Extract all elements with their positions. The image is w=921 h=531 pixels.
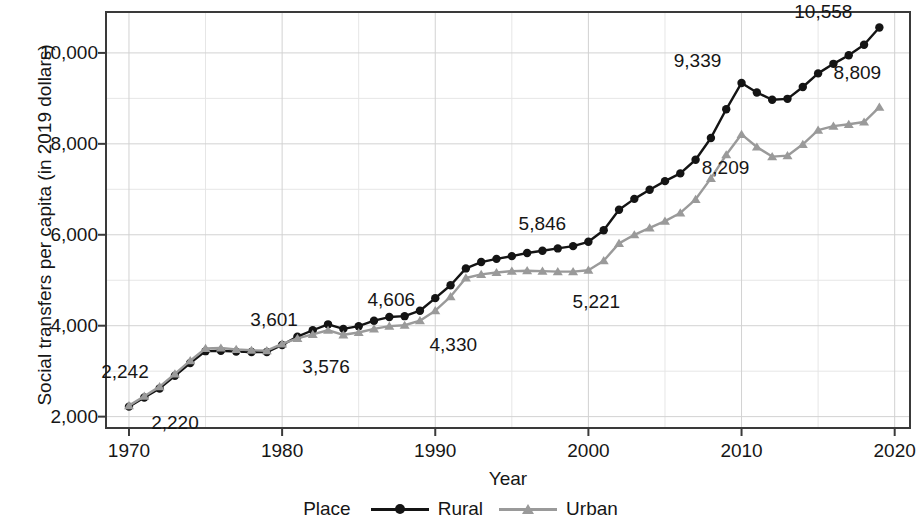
data-point-rural	[462, 264, 470, 272]
data-point-urban	[737, 130, 747, 138]
data-point-rural	[753, 88, 761, 96]
data-label: 3,601	[250, 309, 298, 331]
data-label: 9,339	[674, 50, 722, 72]
legend-entry-rural[interactable]: Rural	[371, 498, 483, 520]
data-point-rural	[385, 313, 393, 321]
data-point-rural	[554, 244, 562, 252]
data-label: 8,809	[834, 62, 882, 84]
x-tick-label: 1980	[261, 440, 303, 462]
legend: Place Rural Urban	[0, 498, 921, 520]
data-point-rural	[416, 307, 424, 315]
data-label: 2,242	[101, 361, 149, 383]
data-point-rural	[431, 294, 439, 302]
x-tick-label: 2010	[720, 440, 762, 462]
legend-label-rural: Rural	[438, 498, 483, 520]
data-point-rural	[508, 252, 516, 260]
data-point-rural	[400, 312, 408, 320]
data-label: 5,221	[573, 291, 621, 313]
data-point-rural	[584, 238, 592, 246]
data-label: 5,846	[519, 213, 567, 235]
data-point-rural	[860, 41, 868, 49]
x-tick-label: 2000	[567, 440, 609, 462]
data-point-rural	[737, 79, 745, 87]
data-point-rural	[768, 96, 776, 104]
data-point-rural	[799, 83, 807, 91]
data-point-urban	[874, 102, 884, 110]
data-label: 4,330	[429, 334, 477, 356]
social-transfers-line-chart: Social transfers per capita (in 2019 dol…	[0, 0, 921, 531]
x-axis-title: Year	[106, 468, 910, 490]
data-label: 3,576	[302, 356, 350, 378]
legend-key-urban	[499, 502, 557, 516]
x-tick-label: 1970	[108, 440, 150, 462]
x-tick-label: 1990	[414, 440, 456, 462]
data-point-rural	[845, 51, 853, 59]
data-point-rural	[676, 169, 684, 177]
data-point-rural	[569, 242, 577, 250]
data-point-rural	[477, 258, 485, 266]
data-label: 2,220	[151, 412, 199, 434]
data-point-rural	[722, 105, 730, 113]
legend-label-urban: Urban	[566, 498, 618, 520]
data-point-rural	[661, 177, 669, 185]
data-point-urban	[614, 239, 624, 247]
data-point-rural	[707, 134, 715, 142]
data-point-rural	[783, 95, 791, 103]
data-point-rural	[523, 249, 531, 257]
legend-key-rural	[371, 502, 429, 516]
legend-title: Place	[303, 498, 351, 520]
x-tick-label: 2020	[874, 440, 916, 462]
plot-frame	[106, 12, 910, 428]
data-point-rural	[600, 226, 608, 234]
legend-entry-urban[interactable]: Urban	[499, 498, 618, 520]
data-label: 10,558	[794, 1, 852, 23]
data-point-rural	[538, 246, 546, 254]
data-point-rural	[492, 255, 500, 263]
data-point-rural	[615, 206, 623, 214]
data-point-rural	[630, 195, 638, 203]
data-point-rural	[875, 23, 883, 31]
data-label: 4,606	[367, 289, 415, 311]
data-point-rural	[446, 281, 454, 289]
data-label: 8,209	[702, 157, 750, 179]
data-point-rural	[814, 69, 822, 77]
data-point-rural	[691, 156, 699, 164]
data-point-rural	[370, 317, 378, 325]
data-point-urban	[660, 217, 670, 225]
data-point-rural	[645, 186, 653, 194]
